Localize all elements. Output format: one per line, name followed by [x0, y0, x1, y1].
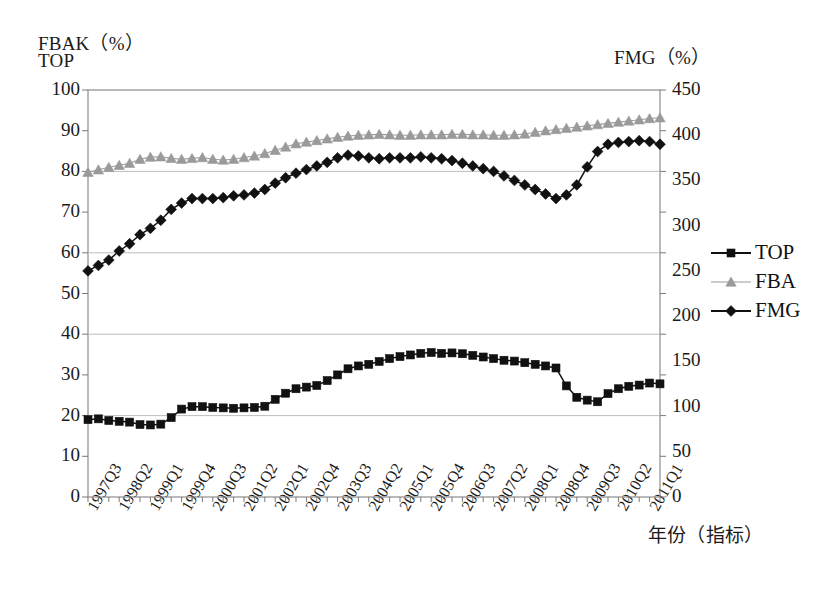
legend-item-fmg[interactable]: FMG: [710, 296, 825, 325]
x-axis-ticks: [88, 497, 660, 502]
square-marker: [710, 243, 752, 263]
y-axis-ticks: [82, 90, 666, 497]
data-series-group: [83, 113, 666, 429]
plot-area: [0, 0, 825, 616]
legend-label: TOP: [755, 240, 794, 265]
legend-item-top[interactable]: TOP: [710, 238, 825, 267]
diamond-marker: [710, 301, 752, 321]
legend-item-fba[interactable]: FBA: [710, 267, 825, 296]
series-top: [84, 349, 664, 429]
chart-legend: TOPFBAFMG: [710, 238, 825, 325]
plot-frame: [88, 90, 660, 497]
legend-label: FBA: [755, 269, 796, 294]
series-fbak: [83, 113, 665, 177]
triangle-marker: [710, 272, 752, 292]
legend-label: FMG: [755, 298, 801, 323]
chart-container: FBAK（%） TOP FMG（%） 年份（指标） 10090807060504…: [0, 0, 825, 616]
